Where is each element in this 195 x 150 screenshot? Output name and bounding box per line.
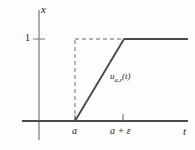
- x-axis-label: t: [183, 126, 186, 137]
- y-tick-label-one: 1: [25, 33, 30, 43]
- curve-label-subscript-epsilon: ε: [119, 76, 122, 83]
- x-tick-label-lead: a +: [110, 125, 127, 136]
- x-tick-label-a-plus-epsilon: a + ε: [110, 126, 131, 136]
- curve-label-base: u: [110, 71, 115, 81]
- y-axis-label: x: [41, 4, 46, 15]
- curve-label-argument: (t): [122, 71, 131, 81]
- x-tick-label-a: a: [72, 126, 77, 136]
- epsilon-glyph: ε: [127, 125, 131, 136]
- plot-canvas: [0, 0, 195, 150]
- curve-label: ua,ε(t): [110, 72, 130, 81]
- ramp-function-figure: x t 1 a a + ε ua,ε(t): [0, 0, 195, 150]
